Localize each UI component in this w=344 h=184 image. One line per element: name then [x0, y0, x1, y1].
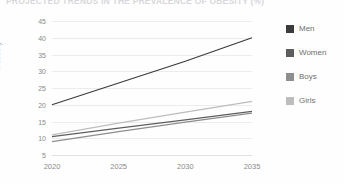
x-axis-line — [52, 155, 252, 156]
obesity-trend-chart: PROJECTED TRENDS IN THE PREVALENCE OF OB… — [0, 0, 344, 184]
legend-item-girls[interactable]: Girls — [286, 96, 326, 105]
plot-area — [52, 21, 252, 155]
y-tick-label: 45 — [6, 18, 46, 25]
y-tick-label: 25 — [6, 85, 46, 92]
x-tick-label: 2035 — [244, 162, 261, 171]
chart-title-strip: PROJECTED TRENDS IN THE PREVALENCE OF OB… — [0, 0, 344, 9]
legend-swatch-icon — [286, 49, 294, 57]
legend-label: Girls — [299, 96, 315, 105]
x-tick-label: 2025 — [110, 162, 127, 171]
legend-item-men[interactable]: Men — [286, 24, 326, 33]
legend-item-boys[interactable]: Boys — [286, 72, 326, 81]
legend-swatch-icon — [286, 73, 294, 81]
y-tick-label: 40 — [6, 34, 46, 41]
y-tick-label: 10 — [6, 135, 46, 142]
series-line-men — [52, 38, 252, 105]
legend-label: Boys — [299, 72, 317, 81]
legend-swatch-icon — [286, 25, 294, 33]
legend-label: Men — [299, 24, 315, 33]
x-tick-label: 2030 — [177, 162, 194, 171]
y-tick-label: 30 — [6, 68, 46, 75]
y-tick-label: 35 — [6, 51, 46, 58]
y-tick-label: 15 — [6, 118, 46, 125]
legend-item-women[interactable]: Women — [286, 48, 326, 57]
y-tick-label: 5 — [6, 152, 46, 159]
series-lines — [52, 21, 252, 155]
series-line-women — [52, 111, 252, 136]
page-title: PROJECTED TRENDS IN THE PREVALENCE OF OB… — [6, 0, 264, 6]
y-tick-label: 20 — [6, 101, 46, 108]
series-line-girls — [52, 101, 252, 134]
chart-legend: MenWomenBoysGirls — [286, 24, 326, 105]
legend-label: Women — [299, 48, 326, 57]
x-tick-label: 2020 — [44, 162, 61, 171]
y-axis-ticks: 51015202530354045 — [0, 21, 46, 155]
legend-swatch-icon — [286, 97, 294, 105]
